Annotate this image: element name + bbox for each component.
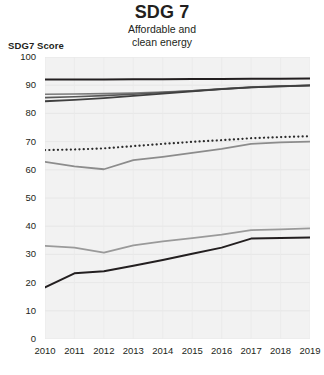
y-axis-tick-label: 60 — [0, 165, 36, 175]
sdg7-chart: SDG 7 Affordable and clean energy SDG7 S… — [0, 0, 324, 375]
series-line-series-mid-gray — [45, 142, 310, 170]
y-axis-label: SDG7 Score — [8, 40, 64, 51]
y-axis-tick-label: 80 — [0, 108, 36, 118]
plot-area — [45, 57, 310, 339]
plot-svg — [45, 57, 310, 339]
series-line-series-low-dark — [45, 237, 310, 287]
series-line-series-low-gray — [45, 228, 310, 252]
y-axis-tick-label: 70 — [0, 137, 36, 147]
y-axis-tick-label: 40 — [0, 221, 36, 231]
y-axis-tick-label: 0 — [0, 334, 36, 344]
series-line-series-top-dark — [45, 78, 310, 79]
y-axis-tick-label: 30 — [0, 249, 36, 259]
chart-subtitle-line1: Affordable and — [0, 23, 324, 35]
y-axis-tick-label: 100 — [0, 52, 36, 62]
x-axis-tick-label: 2019 — [293, 345, 324, 356]
y-axis-tick-label: 10 — [0, 306, 36, 316]
y-axis-tick-label: 50 — [0, 193, 36, 203]
y-axis-tick-label: 20 — [0, 278, 36, 288]
page-title: SDG 7 — [0, 2, 324, 22]
y-axis-tick-label: 90 — [0, 80, 36, 90]
